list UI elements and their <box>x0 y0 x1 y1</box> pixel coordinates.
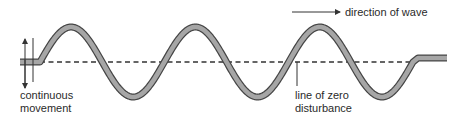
zero-line1: line of zero <box>295 89 352 102</box>
zero-line2: disturbance <box>295 102 352 115</box>
continuous-line2: movement <box>20 102 73 115</box>
zero-disturbance-label: line of zero disturbance <box>295 89 352 115</box>
direction-label: direction of wave <box>345 6 428 19</box>
continuous-line1: continuous <box>20 89 73 102</box>
continuous-movement-label: continuous movement <box>20 89 73 115</box>
